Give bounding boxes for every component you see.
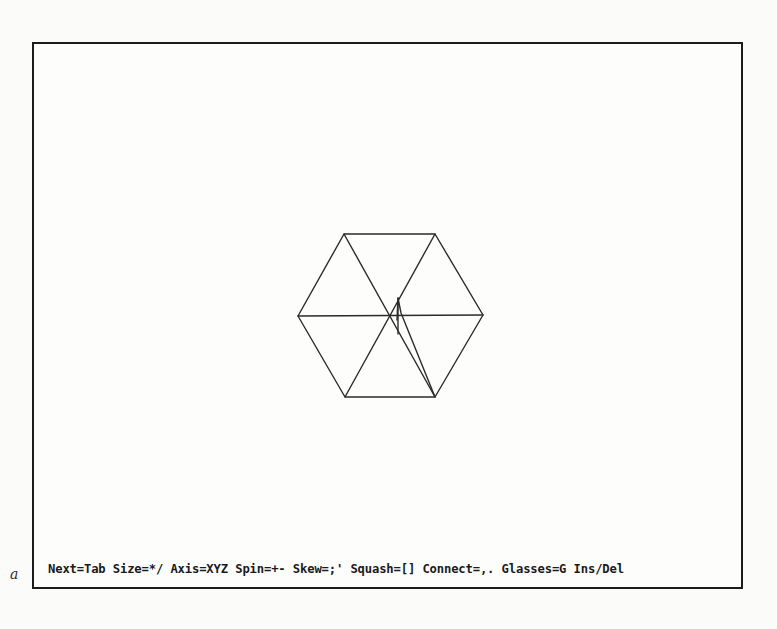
cmd-spin: Spin=+-	[235, 562, 285, 580]
page-margin-mark: a	[10, 566, 18, 582]
program-screen-frame	[32, 42, 743, 589]
cmd-skew: Skew=;'	[293, 562, 343, 580]
cmd-glasses: Glasses=G	[502, 562, 567, 580]
cmd-size: Size=*/	[113, 562, 163, 580]
cmd-axis: Axis=XYZ	[170, 562, 228, 580]
cmd-next: Next=Tab	[48, 562, 106, 580]
cmd-insert-delete: Ins/Del	[574, 562, 624, 580]
cmd-squash: Squash=[]	[350, 562, 415, 580]
command-help-bar: Next=Tab Size=*/ Axis=XYZ Spin=+- Skew=;…	[48, 562, 624, 580]
cmd-connect: Connect=,.	[422, 562, 494, 580]
